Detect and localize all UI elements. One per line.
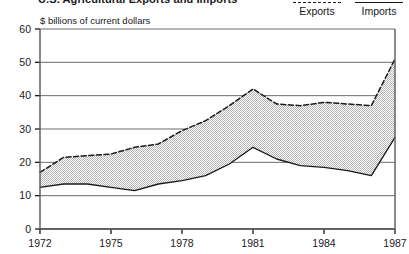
x-tick-label-1984: 1984 xyxy=(312,237,336,249)
y-tick-label-50: 50 xyxy=(19,56,31,68)
y-axis-unit-label: $ billions of current dollars xyxy=(40,15,151,26)
chart-x-ticks: 197219751978198119841987 xyxy=(28,229,407,249)
y-tick-label-40: 40 xyxy=(19,89,31,101)
x-tick-label-1987: 1987 xyxy=(383,237,407,249)
chart-y-ticks: 0102030405060 xyxy=(19,23,40,235)
x-tick-label-1978: 1978 xyxy=(170,237,194,249)
chart-plot: 0102030405060 197219751978198119841987 $… xyxy=(0,0,409,254)
y-tick-label-0: 0 xyxy=(25,223,31,235)
y-tick-label-30: 30 xyxy=(19,123,31,135)
y-tick-label-10: 10 xyxy=(19,189,31,201)
x-tick-label-1981: 1981 xyxy=(241,237,265,249)
chart-page: U.S. Agricultural Exports and Imports Ex… xyxy=(0,0,409,254)
chart-area-band xyxy=(40,59,395,191)
x-tick-label-1972: 1972 xyxy=(28,237,52,249)
x-tick-label-1975: 1975 xyxy=(99,237,123,249)
y-tick-label-60: 60 xyxy=(19,23,31,35)
y-tick-label-20: 20 xyxy=(19,156,31,168)
